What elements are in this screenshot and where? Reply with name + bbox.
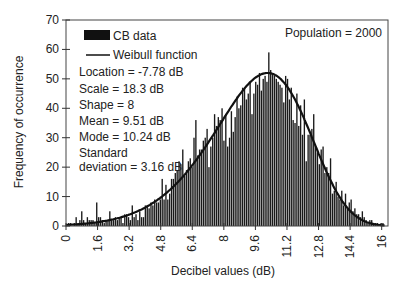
y-axis-label: Frequency of occurrence — [12, 55, 26, 188]
stat-mean: Mean = 9.51 dB — [79, 114, 164, 128]
y-tick-label: 10 — [46, 190, 60, 204]
histogram-bar — [137, 220, 138, 226]
histogram-bar — [341, 191, 342, 226]
y-tick-label: 60 — [46, 42, 60, 56]
histogram-bar — [225, 114, 226, 226]
y-tick-label: 50 — [46, 72, 60, 86]
histogram-bar — [315, 147, 316, 226]
histogram-bar — [193, 138, 194, 226]
population-annotation: Population = 2000 — [285, 26, 382, 40]
histogram-bar — [147, 205, 148, 226]
histogram-bar — [257, 85, 258, 226]
histogram-bar — [199, 149, 200, 226]
histogram-bar — [212, 138, 213, 226]
x-axis-label: Decibel values (dB) — [171, 264, 275, 278]
histogram-bar — [334, 191, 335, 226]
histogram-bar — [246, 99, 247, 226]
histogram-bar — [238, 108, 239, 226]
histogram-bar — [203, 141, 204, 226]
histogram-bar — [234, 117, 235, 226]
histogram-bar — [182, 149, 183, 226]
histogram-bar — [152, 205, 153, 226]
histogram-bar — [141, 217, 142, 226]
x-tick-label: 16 — [375, 235, 389, 249]
histogram-bar — [251, 114, 252, 226]
histogram-bar — [221, 108, 222, 226]
histogram-bar — [349, 202, 350, 226]
histogram-bar — [233, 132, 234, 226]
histogram-bar — [263, 79, 264, 226]
stat-mode: Mode = 10.24 dB — [79, 130, 171, 144]
histogram-bar — [328, 173, 329, 226]
histogram-bar — [347, 208, 348, 226]
histogram-bar — [287, 79, 288, 226]
histogram-bar — [306, 161, 307, 226]
stat-std-value: deviation = 3.16 dB — [79, 160, 182, 174]
histogram-bar — [156, 202, 157, 226]
histogram-bar — [236, 97, 237, 226]
histogram-bar — [298, 126, 299, 226]
x-axis-ticks: 01.63.24.86.489.611.212.814.416 — [59, 223, 389, 258]
histogram-bar — [272, 73, 273, 226]
histogram-bar — [195, 120, 196, 226]
x-tick-label: 1.6 — [91, 235, 105, 252]
x-tick-label: 12.8 — [312, 235, 326, 259]
legend-swatch-cb-data — [84, 30, 110, 40]
histogram-bar — [313, 114, 314, 226]
histogram-bar — [160, 200, 161, 226]
histogram-bar — [165, 185, 166, 226]
legend-label-cb-data: CB data — [113, 29, 157, 43]
histogram-chart: 010203040506070 01.63.24.86.489.611.212.… — [0, 0, 403, 292]
histogram-bar — [324, 173, 325, 226]
histogram-bar — [283, 102, 284, 226]
histogram-bar — [197, 155, 198, 226]
histogram-bar — [358, 214, 359, 226]
histogram-bar — [191, 167, 192, 226]
legend: CB data Weibull function — [84, 29, 198, 62]
histogram-bar — [111, 220, 112, 226]
histogram-bar — [332, 194, 333, 226]
histogram-bar — [154, 200, 155, 226]
histogram-bar — [255, 82, 256, 226]
histogram-bar — [270, 70, 271, 226]
histogram-bar — [87, 217, 88, 226]
histogram-bar — [229, 138, 230, 226]
histogram-bar — [150, 202, 151, 226]
histogram-bar — [309, 135, 310, 226]
histogram-bar — [240, 105, 241, 226]
histogram-bar — [220, 120, 221, 226]
histogram-bar — [294, 123, 295, 226]
histogram-bar — [184, 176, 185, 226]
histogram-bar — [201, 149, 202, 226]
histogram-bar — [289, 99, 290, 226]
histogram-bar — [330, 158, 331, 226]
stats-annotation: Location = -7.78 dB Scale = 18.3 dB Shap… — [79, 65, 183, 174]
histogram-bar — [218, 117, 219, 226]
histogram-bar — [248, 94, 249, 226]
histogram-bar — [210, 147, 211, 226]
histogram-bar — [317, 152, 318, 226]
histogram-bar — [223, 141, 224, 226]
histogram-bar — [362, 211, 363, 226]
histogram-bar — [242, 88, 243, 226]
x-tick-label: 3.2 — [122, 235, 136, 252]
y-tick-label: 70 — [46, 13, 60, 27]
histogram-bar — [259, 73, 260, 226]
histogram-bar — [278, 82, 279, 226]
histogram-bar — [281, 88, 282, 226]
histogram-bar — [279, 85, 280, 226]
histogram-bar — [231, 111, 232, 226]
stat-location: Location = -7.78 dB — [79, 65, 183, 79]
y-tick-label: 30 — [46, 131, 60, 145]
histogram-bar — [264, 76, 265, 226]
histogram-bar — [227, 147, 228, 226]
histogram-bar — [268, 52, 269, 226]
histogram-bar — [261, 91, 262, 226]
y-tick-label: 20 — [46, 160, 60, 174]
histogram-bar — [274, 76, 275, 226]
histogram-bar — [343, 205, 344, 226]
histogram-bar — [169, 194, 170, 226]
histogram-bar — [113, 220, 114, 226]
histogram-bar — [135, 214, 136, 226]
histogram-bar — [132, 205, 133, 226]
